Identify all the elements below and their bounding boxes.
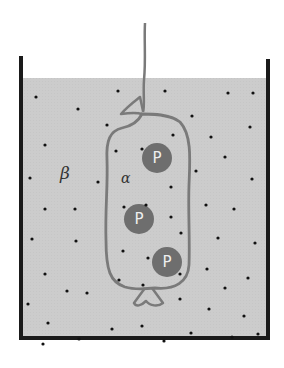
- solute-particle: [96, 180, 99, 183]
- solute-particle: [162, 339, 165, 342]
- solute-particle: [248, 125, 251, 128]
- solute-particle: [194, 169, 197, 172]
- solute-particle: [41, 342, 44, 345]
- solute-particle: [204, 203, 207, 206]
- solute-particle: [169, 215, 172, 218]
- solute-particle: [146, 256, 149, 259]
- solute-particle: [226, 91, 229, 94]
- solute-particle: [171, 133, 174, 136]
- solute-particle: [28, 176, 31, 179]
- solute-particle: [85, 291, 88, 294]
- solute-particle: [205, 267, 208, 270]
- beta-label: β: [60, 163, 70, 183]
- solute-particle: [110, 327, 113, 330]
- solute-particle: [26, 302, 29, 305]
- solute-particle: [246, 276, 249, 279]
- solute-particle: [178, 297, 181, 300]
- solute-particle: [223, 286, 226, 289]
- solute-particle: [251, 91, 254, 94]
- solute-particle: [116, 89, 119, 92]
- solute-particle: [207, 307, 210, 310]
- alpha-label: α: [121, 170, 130, 186]
- solute-particle: [163, 89, 166, 92]
- solute-particle: [140, 324, 143, 327]
- solute-particle: [46, 321, 49, 324]
- solute-particle: [253, 241, 256, 244]
- solute-particle: [43, 207, 46, 210]
- solute-particle: [65, 289, 68, 292]
- solute-particle: [256, 332, 259, 335]
- solute-particle: [232, 207, 235, 210]
- solute-particle: [77, 337, 80, 340]
- solute-particle: [74, 239, 77, 242]
- solute-particle: [73, 207, 76, 210]
- diagram-canvas: [0, 0, 284, 368]
- solute-particle: [216, 236, 219, 239]
- solute-particle: [223, 155, 226, 158]
- solute-particle: [190, 114, 193, 117]
- solute-particle: [121, 249, 124, 252]
- solute-particle: [30, 237, 33, 240]
- solute-particle: [76, 107, 79, 110]
- protein-label: P: [152, 247, 182, 277]
- protein-label: P: [142, 143, 172, 173]
- dialysis-diagram: P P P β α: [0, 0, 284, 368]
- solute-particle: [179, 231, 182, 234]
- solute-particle: [105, 123, 108, 126]
- solute-particle: [43, 143, 46, 146]
- solute-particle: [169, 185, 172, 188]
- bag-string: [143, 23, 145, 112]
- solute-particle: [43, 272, 46, 275]
- solute-particle: [189, 331, 192, 334]
- solute-particle: [141, 283, 144, 286]
- solute-particle: [209, 135, 212, 138]
- solute-particle: [117, 278, 120, 281]
- solute-particle: [114, 149, 117, 152]
- solute-particle: [34, 95, 37, 98]
- solute-particle: [230, 335, 233, 338]
- solute-particle: [242, 314, 245, 317]
- solute-particle: [250, 177, 253, 180]
- protein-label: P: [124, 204, 154, 234]
